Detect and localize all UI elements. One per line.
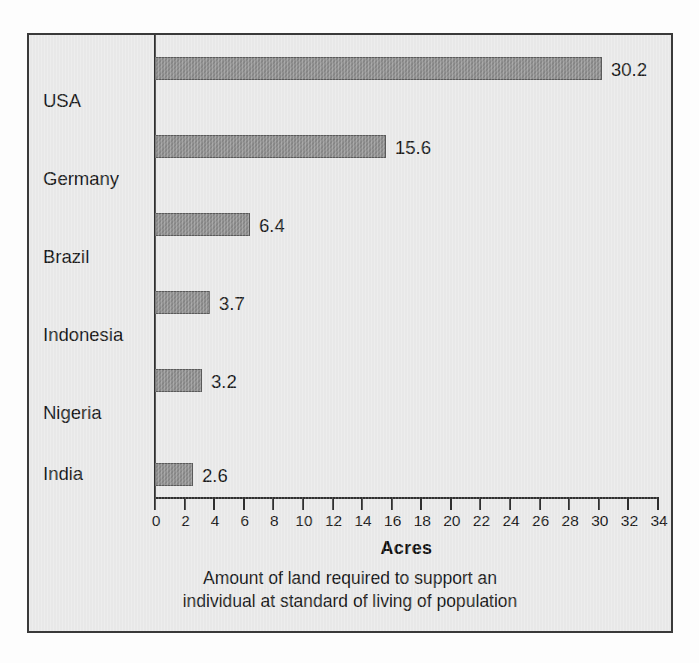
x-axis-tick-label: 6 [230, 513, 260, 529]
x-axis-tick [154, 499, 156, 510]
x-axis-tick-label: 32 [614, 513, 644, 529]
category-label: Germany [43, 170, 153, 189]
x-axis-tick [450, 499, 452, 510]
x-axis-tick [184, 499, 186, 510]
x-axis-tick-label: 4 [200, 513, 230, 529]
x-axis-tick [332, 499, 334, 510]
x-axis-tick [598, 499, 600, 510]
x-axis-tick-label: 26 [526, 513, 556, 529]
x-axis-tick-label: 16 [378, 513, 408, 529]
x-axis-tick-label: 30 [585, 513, 615, 529]
bar-germany [155, 135, 386, 158]
x-axis-tick-label: 14 [348, 513, 378, 529]
x-axis-tick-label: 20 [437, 513, 467, 529]
x-axis-tick [657, 499, 659, 510]
bar-brazil [155, 213, 250, 236]
bar-india [155, 463, 193, 486]
x-axis-tick [479, 499, 481, 510]
x-axis-tick [539, 499, 541, 510]
x-axis-tick-label: 10 [289, 513, 319, 529]
x-axis-title: Acres [154, 538, 659, 559]
bar-value-label: 15.6 [395, 139, 431, 158]
value-axis-baseline [154, 35, 156, 498]
x-axis-tick-label: 34 [644, 513, 674, 529]
x-axis-tick [302, 499, 304, 510]
x-axis-tick-label: 22 [466, 513, 496, 529]
plot-area: USA Germany Brazil Indonesia Nigeria Ind… [29, 35, 671, 631]
bar-value-label: 30.2 [611, 61, 647, 80]
category-label: Indonesia [43, 326, 153, 345]
chart-figure: USA Germany Brazil Indonesia Nigeria Ind… [0, 0, 699, 663]
x-axis-tick [361, 499, 363, 510]
x-axis-line [154, 497, 659, 499]
bar-value-label: 2.6 [202, 467, 228, 486]
category-label: USA [43, 92, 153, 111]
category-label: Nigeria [43, 404, 153, 423]
category-label: India [43, 465, 153, 484]
bar-value-label: 6.4 [259, 217, 285, 236]
bar-value-label: 3.7 [219, 295, 245, 314]
category-label: Brazil [43, 248, 153, 267]
x-axis-tick-label: 18 [407, 513, 437, 529]
x-axis-tick [213, 499, 215, 510]
x-axis-tick [568, 499, 570, 510]
bar-usa [155, 57, 602, 80]
bar-indonesia [155, 291, 210, 314]
x-axis-tick [272, 499, 274, 510]
chart-caption: Amount of land required to support an in… [49, 567, 651, 613]
x-axis-tick [243, 499, 245, 510]
x-axis-tick [509, 499, 511, 510]
caption-line-2: individual at standard of living of popu… [49, 590, 651, 613]
chart-frame: USA Germany Brazil Indonesia Nigeria Ind… [27, 33, 673, 633]
x-axis-tick [420, 499, 422, 510]
bar-value-label: 3.2 [211, 373, 237, 392]
x-axis-tick-label: 12 [319, 513, 349, 529]
x-axis-tick [627, 499, 629, 510]
x-axis-tick-label: 2 [171, 513, 201, 529]
x-axis-tick-label: 28 [555, 513, 585, 529]
x-axis-tick-label: 0 [141, 513, 171, 529]
x-axis-tick-label: 24 [496, 513, 526, 529]
x-axis-tick-label: 8 [259, 513, 289, 529]
x-axis-tick [391, 499, 393, 510]
bar-nigeria [155, 369, 202, 392]
caption-line-1: Amount of land required to support an [49, 567, 651, 590]
